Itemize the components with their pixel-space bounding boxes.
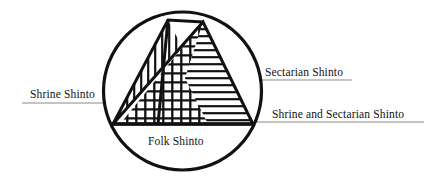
label-shrine-shinto: Shrine Shinto	[30, 88, 95, 101]
label-sectarian-shinto: Sectarian Shinto	[265, 66, 343, 79]
diagram-root: Shrine Shinto Sectarian Shinto Shrine an…	[0, 0, 448, 189]
label-shrine-and-sectarian-shinto: Shrine and Sectarian Shinto	[272, 108, 404, 121]
label-folk-shinto: Folk Shinto	[148, 135, 204, 148]
